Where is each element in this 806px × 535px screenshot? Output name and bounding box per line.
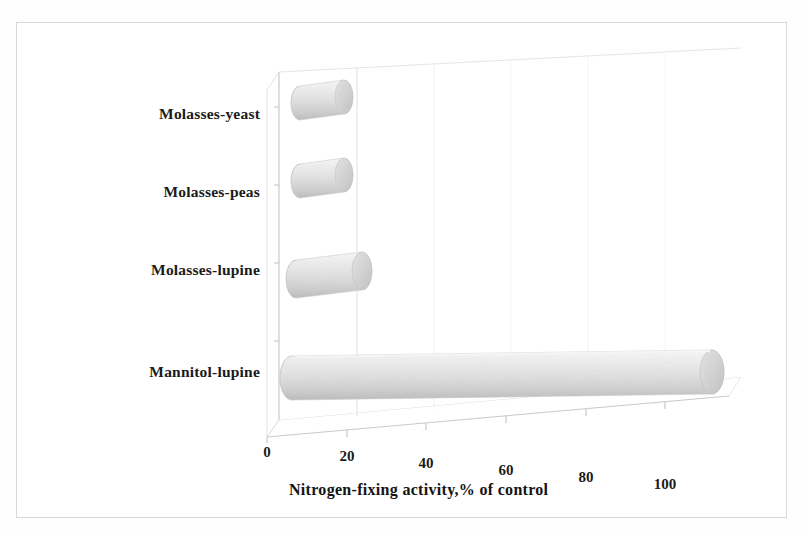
left-wall-edge — [267, 72, 279, 437]
x-tick-label-0: 0 — [255, 444, 279, 461]
category-label-mannitol-lupine: Mannitol-lupine — [95, 363, 260, 381]
bar-molasses-peas[interactable] — [291, 158, 353, 198]
category-label-molasses-yeast: Molasses-yeast — [95, 105, 260, 123]
chart-plot-area: Molasses-yeast Molasses-peas Molasses-lu… — [0, 0, 806, 535]
x-tick-label-100: 100 — [646, 476, 684, 493]
x-tick-label-20: 20 — [332, 448, 362, 465]
x-tick-label-60: 60 — [491, 462, 521, 479]
bar-mannitol-lupine[interactable] — [280, 350, 724, 400]
category-label-molasses-lupine: Molasses-lupine — [95, 261, 260, 279]
x-tick-label-40: 40 — [411, 455, 441, 472]
category-ticks — [274, 107, 279, 341]
x-axis-title: Nitrogen-fixing activity,% of control — [289, 481, 548, 499]
x-tick-label-80: 80 — [571, 469, 601, 486]
bar-molasses-yeast[interactable] — [291, 80, 353, 120]
category-label-molasses-peas: Molasses-peas — [95, 183, 260, 201]
